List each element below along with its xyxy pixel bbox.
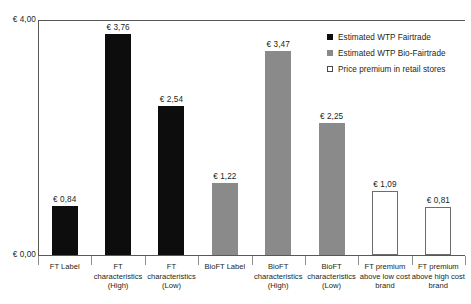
legend-swatch-icon bbox=[327, 50, 333, 56]
bar-group: € 0,84 bbox=[38, 20, 91, 255]
legend-item: Estimated WTP Fairtrade bbox=[327, 29, 446, 45]
bar bbox=[319, 123, 345, 255]
bar bbox=[52, 206, 78, 255]
bar-group: € 2,54 bbox=[145, 20, 198, 255]
legend-swatch-icon bbox=[327, 34, 333, 40]
y-axis-tick-min: € 0,00 bbox=[2, 250, 36, 259]
bar-value-label: € 2,25 bbox=[320, 112, 343, 121]
bar bbox=[105, 34, 131, 255]
legend-label: Estimated WTP Bio-Fairtrade bbox=[338, 49, 446, 58]
bar bbox=[372, 191, 398, 255]
bar-group: € 1,22 bbox=[198, 20, 251, 255]
legend-swatch-icon bbox=[327, 66, 333, 72]
category-label-line: (Low) bbox=[139, 281, 204, 291]
legend-label: Price premium in retail stores bbox=[338, 65, 446, 74]
category-label-line: FT premium bbox=[406, 262, 471, 272]
bar-chart: € 4,00 € 0,00 € 0,84€ 3,76€ 2,54€ 1,22€ … bbox=[0, 0, 471, 304]
bar-value-label: € 1,22 bbox=[213, 172, 236, 181]
bar bbox=[425, 207, 451, 255]
legend-item: Estimated WTP Bio-Fairtrade bbox=[327, 45, 446, 61]
category-label-line: above high cost bbox=[406, 272, 471, 282]
bar-group: € 3,47 bbox=[252, 20, 305, 255]
bar bbox=[265, 51, 291, 255]
bar bbox=[158, 106, 184, 255]
legend-item: Price premium in retail stores bbox=[327, 61, 446, 77]
bar-value-label: € 0,84 bbox=[53, 195, 76, 204]
bar-value-label: € 3,47 bbox=[267, 40, 290, 49]
category-label: FT premiumabove high costbrand bbox=[406, 262, 471, 291]
category-label-line: brand bbox=[406, 281, 471, 291]
bar-value-label: € 1,09 bbox=[373, 180, 396, 189]
bar-value-label: € 3,76 bbox=[106, 23, 129, 32]
bar-value-label: € 2,54 bbox=[160, 95, 183, 104]
category-label-line: characteristics bbox=[139, 272, 204, 282]
legend: Estimated WTP FairtradeEstimated WTP Bio… bbox=[327, 29, 446, 77]
y-axis-tick-max: € 4,00 bbox=[2, 15, 36, 24]
bar-value-label: € 0,81 bbox=[427, 196, 450, 205]
bar-group: € 3,76 bbox=[91, 20, 144, 255]
legend-label: Estimated WTP Fairtrade bbox=[338, 33, 431, 42]
bar bbox=[212, 183, 238, 255]
